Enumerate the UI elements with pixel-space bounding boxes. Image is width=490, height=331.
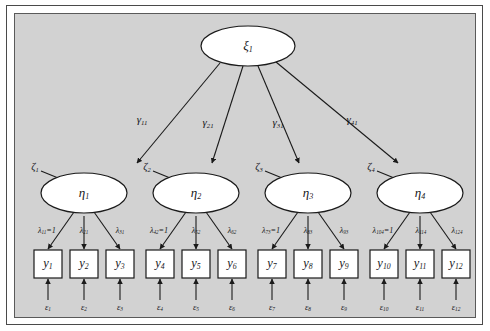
diagram-panel [14, 13, 476, 318]
diagram-canvas: ξ1 γ11 γ21 γ31 γ41 ζ1 ζ2 ζ3 ζ4 η1 η2 η3 … [0, 0, 490, 331]
